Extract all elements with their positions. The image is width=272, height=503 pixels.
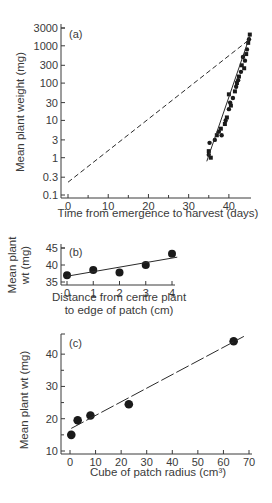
x-tick-label: 70 [243, 456, 255, 468]
y-tick-label: 1000 [34, 40, 58, 52]
y-tick-label: 40 [46, 348, 58, 360]
y-tick-label: 0.1 [43, 189, 58, 201]
panel-b-y-axis-label-line2: wt (mg) [19, 246, 31, 286]
panel-c-plot-area [67, 336, 244, 439]
data-point [209, 156, 213, 160]
data-point [242, 66, 246, 70]
data-point [219, 127, 223, 131]
data-point [243, 58, 247, 62]
y-tick-label: 45 [46, 242, 58, 254]
data-point [239, 70, 243, 74]
panel-b-x-axis-label-line1: Distance from centre plant [52, 291, 187, 303]
data-point [89, 266, 97, 274]
panel-a-label: (a) [69, 28, 82, 40]
panel-c: 10203040010203040506070 (c) Cube of patc… [18, 334, 255, 478]
y-tick-label: 40 [46, 259, 58, 271]
y-tick-label: 20 [46, 413, 58, 425]
panel-b: 35404501234 (b) Distance from centre pla… [6, 236, 187, 316]
data-point [229, 337, 238, 346]
y-tick-label: 10 [46, 114, 58, 126]
data-point [223, 122, 227, 126]
y-tick-label: 3 [52, 134, 58, 146]
panel-a-plot-area [68, 33, 252, 183]
data-point [229, 104, 233, 108]
y-tick-label: 35 [46, 276, 58, 288]
fit-line [68, 39, 250, 182]
data-point [233, 89, 237, 93]
data-point [237, 75, 241, 79]
y-tick-label: 1 [52, 152, 58, 164]
data-point [67, 431, 76, 440]
data-point [207, 141, 211, 145]
panel-a-x-axis-label: Time from emergence to harvest (days) [58, 207, 259, 219]
y-tick-label: 3000 [34, 22, 58, 34]
data-point [225, 115, 229, 119]
data-point [236, 78, 240, 82]
fit-line [207, 36, 250, 161]
y-tick-label: 100 [40, 77, 58, 89]
data-point [244, 52, 248, 56]
data-point [231, 96, 235, 100]
data-point [234, 85, 238, 89]
panel-a-y-axis-label: Mean plant weight (mg) [14, 52, 26, 172]
y-tick-label: 300 [40, 59, 58, 71]
panel-a-axes [61, 24, 251, 198]
panel-c-axes [61, 334, 252, 454]
panel-b-y-axis-label-line1: Mean plant [6, 236, 18, 294]
data-point [227, 107, 231, 111]
panel-c-x-axis-label: Cube of patch radius (cm³) [90, 466, 226, 478]
panel-b-x-axis-label-line2: to edge of patch (cm) [65, 304, 174, 316]
data-point [248, 33, 252, 37]
fit-line [71, 336, 244, 428]
panel-c-label: (c) [69, 337, 82, 349]
panel-b-label: (b) [69, 246, 82, 258]
panel-a-tick-labels: 0.10.313103010030010003000010203040 [34, 22, 235, 212]
data-point [116, 268, 124, 276]
panel-a: 0.10.313103010030010003000010203040 (a) … [14, 22, 259, 219]
y-tick-label: 30 [46, 380, 58, 392]
data-point [63, 271, 71, 279]
figure: 0.10.313103010030010003000010203040 (a) … [0, 0, 272, 503]
data-point [125, 400, 134, 409]
y-tick-label: 10 [46, 445, 58, 457]
panel-c-y-axis-label: Mean plant wt (mg) [18, 351, 30, 450]
data-point [219, 133, 223, 137]
y-tick-label: 30 [46, 97, 58, 109]
data-point [168, 250, 176, 258]
x-tick-label: 0 [67, 456, 73, 468]
y-tick-label: 0.3 [43, 171, 58, 183]
